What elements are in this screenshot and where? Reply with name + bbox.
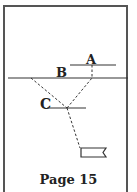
path-c-to-flag bbox=[67, 108, 80, 148]
path-a-to-c bbox=[67, 65, 92, 108]
flag-icon bbox=[81, 148, 106, 157]
page-number-label: Page 15 bbox=[0, 172, 137, 187]
point-label-b: B bbox=[56, 66, 67, 79]
point-label-c: C bbox=[40, 97, 51, 111]
route-diagram bbox=[0, 0, 137, 192]
point-label-a: A bbox=[86, 53, 96, 66]
